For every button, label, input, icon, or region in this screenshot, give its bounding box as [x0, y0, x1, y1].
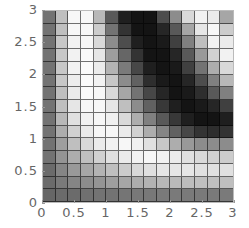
- heatmap-cell: [132, 62, 145, 75]
- heatmap-cell: [170, 126, 183, 139]
- heatmap-cell: [220, 189, 233, 202]
- heatmap-cell: [119, 100, 132, 113]
- heatmap-cell: [157, 164, 170, 177]
- heatmap-cell: [208, 87, 221, 100]
- y-tick-mark: [42, 139, 45, 140]
- heatmap-cell: [208, 24, 221, 37]
- heatmap-cell: [68, 11, 81, 24]
- heatmap-cell: [220, 75, 233, 88]
- heatmap-cell: [56, 75, 69, 88]
- heatmap-cell: [119, 24, 132, 37]
- heatmap-cell: [220, 138, 233, 151]
- heatmap-cell: [195, 138, 208, 151]
- heatmap-cell: [170, 11, 183, 24]
- heatmap-cell: [56, 87, 69, 100]
- heatmap-cell: [182, 49, 195, 62]
- heatmap-cell: [106, 11, 119, 24]
- heatmap-cell: [106, 177, 119, 190]
- heatmap-cell: [68, 177, 81, 190]
- heatmap-cell: [220, 113, 233, 126]
- heatmap-cell: [132, 24, 145, 37]
- heatmap-cell: [43, 177, 56, 190]
- heatmap-cell: [170, 164, 183, 177]
- heatmap-cell: [68, 87, 81, 100]
- heatmap-cell: [81, 87, 94, 100]
- heatmap-cell: [220, 36, 233, 49]
- heatmap-cell: [81, 62, 94, 75]
- heatmap-cell: [182, 189, 195, 202]
- heatmap-cell: [157, 62, 170, 75]
- heatmap-cell: [94, 189, 107, 202]
- heatmap-cell: [81, 75, 94, 88]
- heatmap-cell: [119, 49, 132, 62]
- heatmap-cell: [220, 100, 233, 113]
- heatmap-cell: [68, 75, 81, 88]
- heatmap-cell: [119, 126, 132, 139]
- heatmap-cell: [132, 87, 145, 100]
- heatmap-cell: [182, 151, 195, 164]
- heatmap-cell: [119, 151, 132, 164]
- heatmap-cell: [106, 113, 119, 126]
- heatmap-cell: [195, 100, 208, 113]
- heatmap-cell: [132, 164, 145, 177]
- heatmap-cell: [182, 87, 195, 100]
- heatmap-cell: [94, 113, 107, 126]
- heatmap-cell: [81, 151, 94, 164]
- heatmap-cell: [170, 62, 183, 75]
- heatmap-cell: [43, 138, 56, 151]
- heatmap-cell: [81, 126, 94, 139]
- heatmap-cell: [208, 164, 221, 177]
- heatmap-cell: [182, 24, 195, 37]
- heatmap-cell: [220, 151, 233, 164]
- heatmap-cell: [157, 100, 170, 113]
- heatmap-cell: [106, 24, 119, 37]
- heatmap-cell: [182, 62, 195, 75]
- heatmap-cell: [170, 100, 183, 113]
- heatmap-cell: [94, 24, 107, 37]
- heatmap-cell: [106, 87, 119, 100]
- heatmap-cell: [81, 138, 94, 151]
- heatmap-cell: [170, 177, 183, 190]
- x-tick-label: 1.5: [126, 206, 150, 219]
- heatmap-cell: [157, 138, 170, 151]
- heatmap-cell: [81, 113, 94, 126]
- y-tick-mark: [42, 42, 45, 43]
- x-tick-label: 1: [101, 206, 110, 219]
- heatmap-cell: [144, 62, 157, 75]
- heatmap-cell: [119, 138, 132, 151]
- heatmap-cell: [144, 100, 157, 113]
- heatmap-cell: [132, 36, 145, 49]
- heatmap-cell: [68, 164, 81, 177]
- heatmap-cell: [195, 87, 208, 100]
- heatmap-cell: [157, 177, 170, 190]
- heatmap-cell: [94, 87, 107, 100]
- heatmap-cell: [119, 11, 132, 24]
- heatmap-cell: [182, 164, 195, 177]
- heatmap-cell: [68, 62, 81, 75]
- heatmap-cell: [208, 151, 221, 164]
- heatmap-cell: [144, 138, 157, 151]
- heatmap-cell: [182, 113, 195, 126]
- heatmap-cell: [220, 164, 233, 177]
- heatmap-cell: [157, 49, 170, 62]
- heatmap-cell: [81, 11, 94, 24]
- heatmap-cell: [208, 49, 221, 62]
- heatmap-cell: [132, 113, 145, 126]
- heatmap-cell: [144, 164, 157, 177]
- heatmap-cell: [56, 177, 69, 190]
- heatmap-cell: [170, 87, 183, 100]
- heatmap-cell: [208, 75, 221, 88]
- heatmap-cell: [119, 113, 132, 126]
- heatmap-cell: [106, 189, 119, 202]
- heatmap-cell: [144, 113, 157, 126]
- heatmap-cell: [56, 11, 69, 24]
- heatmap-cell: [157, 36, 170, 49]
- heatmap-cell: [157, 189, 170, 202]
- heatmap-cell: [182, 138, 195, 151]
- heatmap-cell: [182, 100, 195, 113]
- heatmap-cell: [119, 36, 132, 49]
- heatmap-cell: [43, 49, 56, 62]
- heatmap-cell: [208, 100, 221, 113]
- heatmap-cell: [56, 100, 69, 113]
- heatmap-cell: [208, 177, 221, 190]
